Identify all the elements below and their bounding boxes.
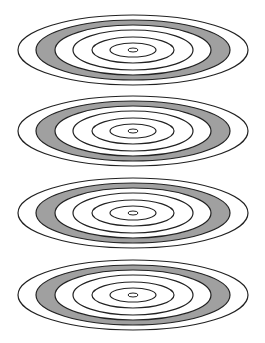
band-inner-ellipse (55, 188, 211, 238)
cropped-caption (8, 337, 188, 343)
ellipse-set-2 (18, 96, 248, 166)
concentric-ellipses-diagram (0, 0, 265, 343)
band-inner-ellipse (55, 270, 211, 320)
band-inner-ellipse (55, 25, 211, 75)
ellipse-set-4 (18, 260, 248, 330)
ellipse-set-3 (18, 178, 248, 248)
ellipse-set-1 (18, 15, 248, 85)
band-inner-ellipse (55, 106, 211, 156)
